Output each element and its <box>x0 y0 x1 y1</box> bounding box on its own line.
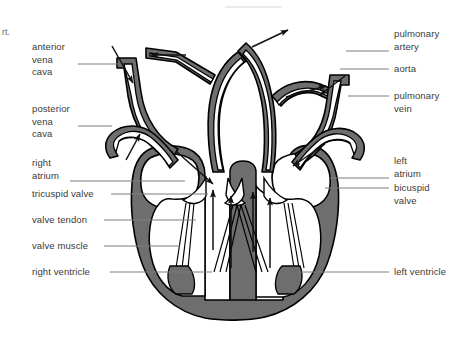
heart-diagram-figure: rt. <box>0 0 470 339</box>
arrow-aorta-out <box>252 30 288 47</box>
label-left-atrium: left atrium <box>394 155 421 180</box>
label-valve-tendon: valve tendon <box>32 214 87 227</box>
papillary-muscle-left <box>275 266 302 294</box>
vessel-aortic-arch <box>272 82 334 106</box>
label-pulmonary-vein: pulmonary vein <box>394 90 439 115</box>
label-right-ventricle: right ventricle <box>32 266 90 279</box>
label-tricuspid-valve: tricuspid valve <box>32 188 94 201</box>
label-left-ventricle: left ventricle <box>394 266 446 279</box>
label-pulmonary-artery: pulmonary artery <box>394 28 439 53</box>
label-posterior-vena-cava: posterior vena cava <box>32 103 70 141</box>
label-right-atrium: right atrium <box>32 157 59 182</box>
papillary-muscle-right <box>168 266 195 294</box>
vessel-anterior-vena-cava <box>117 58 178 160</box>
label-anterior-vena-cava: anterior vena cava <box>32 41 65 79</box>
label-valve-muscle: valve muscle <box>32 240 88 253</box>
label-aorta: aorta <box>394 63 416 76</box>
label-bicuspid-valve: bicuspid valve <box>394 182 430 207</box>
